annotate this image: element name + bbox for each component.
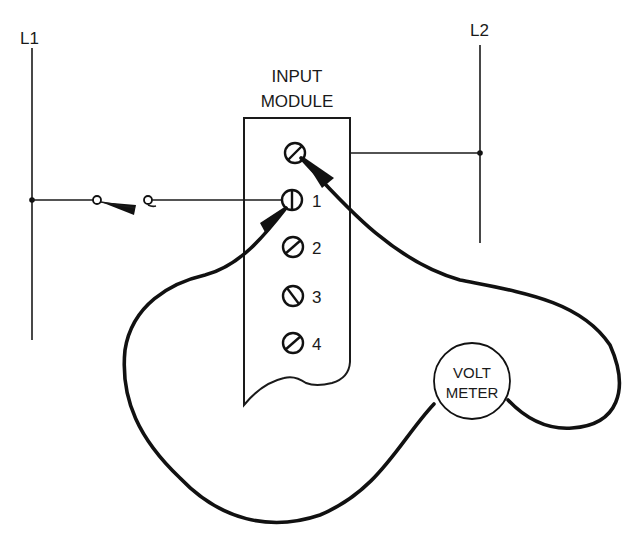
volt-meter: VOLT METER [434, 343, 510, 419]
terminal-1-label: 1 [312, 192, 321, 211]
terminal-2-label: 2 [312, 239, 321, 258]
terminal-4-label: 4 [312, 335, 321, 354]
input-module: INPUT MODULE 1 2 3 [244, 67, 350, 405]
switch[interactable] [93, 196, 156, 215]
volt-meter-line2: METER [446, 384, 499, 401]
wiring-diagram: L1 L2 INPUT MODULE [0, 0, 638, 538]
module-title-line1: INPUT [272, 67, 323, 86]
module-title-line2: MODULE [261, 92, 334, 111]
l2-rail: L2 [470, 21, 489, 243]
l2-label: L2 [470, 21, 489, 40]
volt-meter-body [434, 343, 510, 419]
switch-contact-left [93, 196, 101, 204]
l1-rail: L1 [20, 29, 39, 340]
switch-contact-right [144, 196, 152, 204]
terminal-3-label: 3 [312, 288, 321, 307]
switch-blade-icon [101, 202, 136, 215]
l1-label: L1 [20, 29, 39, 48]
volt-meter-line1: VOLT [453, 364, 491, 381]
